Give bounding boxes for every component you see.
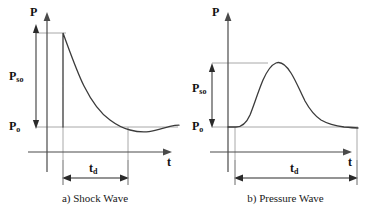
shock-wave-y-axis-label: P: [30, 6, 37, 18]
pressure-wave-plot: [190, 0, 381, 207]
td-subscript-text: d: [93, 167, 97, 176]
td-subscript-text: d: [294, 167, 298, 176]
shock-wave-peak-pressure-label: Pso: [9, 70, 23, 82]
pso-dimension-arrow-top: [33, 24, 39, 33]
pso-subscript-text: so: [199, 87, 206, 96]
pressure-wave-ambient-pressure-label: Po: [192, 120, 203, 132]
pressure-wave-x-axis-label: t: [348, 156, 352, 168]
shock-wave-ambient-pressure-label: Po: [9, 120, 20, 132]
pso-subscript-text: so: [16, 75, 23, 84]
pso-dimension-arrow-bottom: [33, 120, 39, 129]
p-axis-arrowhead: [44, 12, 51, 21]
pressure-wave-peak-pressure-label: Pso: [192, 82, 206, 94]
blast-pressure-waveform-figure: P t Pso Po td a) Shock Wave: [0, 0, 381, 207]
pressure-wave-guide-lines: [212, 63, 358, 160]
shock-wave-duration-label: td: [89, 162, 97, 174]
panel-shock-wave: P t Pso Po td a) Shock Wave: [0, 0, 190, 207]
panel-pressure-wave: P t Pso Po td b) Pressure Wave: [190, 0, 381, 207]
pressure-wave-caption: b) Pressure Wave: [190, 192, 381, 204]
shock-wave-caption: a) Shock Wave: [0, 192, 190, 204]
shock-wave-curve: [63, 33, 179, 132]
shock-wave-x-axis-label: t: [167, 156, 171, 168]
pressure-wave-curve: [228, 62, 358, 128]
shock-wave-guide-lines: [36, 33, 178, 160]
pressure-wave-duration-label: td: [290, 162, 298, 174]
po-subscript-text: o: [16, 125, 20, 134]
po-subscript-text: o: [199, 125, 203, 134]
pressure-wave-y-axis-label: P: [212, 6, 219, 18]
p-axis-arrowhead: [225, 12, 232, 21]
pso-dimension-arrow-top: [209, 63, 215, 72]
